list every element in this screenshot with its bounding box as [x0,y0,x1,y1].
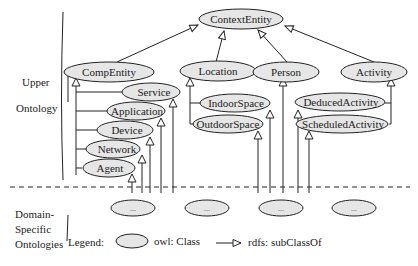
legend-label: Legend: [68,236,104,248]
legend-subclass-label: rdfs: subClassOf [248,236,322,248]
outdoorspace-arrowhead [254,131,262,139]
upper-ontology-bracket [62,12,64,180]
network-arrowhead [138,155,146,163]
device-arrowhead [146,137,154,145]
svg-text:ScheduledActivity: ScheduledActivity [302,118,384,130]
domain-node-3: ... [259,200,303,216]
ontology-diagram: Upper Ontology Domain- Specific Ontologi… [0,0,418,266]
node-scheduledactivity: ScheduledActivity [296,115,388,133]
section-label-upper-1: Upper [22,76,50,88]
service-arrowhead [169,99,177,107]
svg-text:...: ... [204,204,210,213]
svg-text:Service: Service [138,86,171,98]
location-arrowhead [186,78,194,86]
node-service: Service [122,83,180,101]
node-outdoorspace: OutdoorSpace [193,115,263,133]
svg-text:ContextEntity: ContextEntity [210,13,272,25]
application-arrowhead [157,118,165,126]
svg-text:...: ... [130,204,136,213]
svg-text:Activity: Activity [356,66,393,78]
svg-text:Network: Network [98,143,137,155]
edge-person-contextentity [258,30,287,62]
agent-arrowhead [128,174,136,182]
edge-activity-contextentity [285,26,374,62]
svg-text:IndoorSpace: IndoorSpace [208,97,264,109]
edge-location-contextentity [216,31,224,62]
deducedactivity-arrowhead [294,110,302,118]
node-location: Location [180,61,256,81]
svg-text:Device: Device [111,124,142,136]
node-activity: Activity [341,62,407,82]
section-label-domain-2: Specific [15,223,51,235]
node-device: Device [97,121,153,139]
node-person: Person [253,62,319,82]
section-label-domain-1: Domain- [15,208,54,220]
svg-text:CompEntity: CompEntity [82,66,136,78]
svg-text:...: ... [351,204,357,213]
svg-text:Person: Person [271,66,301,78]
edge-compentity-contextentity [117,25,198,62]
svg-text:DeducedActivity: DeducedActivity [303,96,379,108]
indoorspace-arrowhead [266,110,274,118]
node-application: Application [107,102,165,120]
domain-node-4: ... [332,200,376,216]
section-label-domain-3: Ontologies [15,238,63,250]
svg-text:...: ... [278,204,284,213]
node-network: Network [86,140,140,158]
svg-text:Location: Location [198,65,238,77]
domain-node-2: ... [185,200,229,216]
svg-text:Agent: Agent [97,162,124,174]
legend-class-label: owl: Class [154,235,200,247]
node-agent: Agent [83,159,135,177]
node-deducedactivity: DeducedActivity [295,93,385,111]
node-compentity: CompEntity [64,62,154,82]
domain-node-1: ... [111,200,155,216]
scheduledactivity-arrowhead [305,131,313,139]
svg-text:Application: Application [111,105,163,117]
node-indoorspace: IndoorSpace [200,94,270,112]
svg-text:OutdoorSpace: OutdoorSpace [197,118,260,130]
section-label-upper-2: Ontology [16,102,58,114]
node-contextentity: ContextEntity [199,9,283,29]
legend-class-icon [116,234,148,248]
